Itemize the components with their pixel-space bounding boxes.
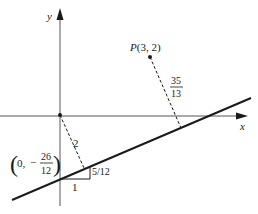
point-p-coords: (3, 2): [137, 41, 161, 54]
intercept-minus: −: [30, 156, 36, 168]
point-distance-numerator: 35: [171, 75, 181, 86]
intercept-numerator: 26: [41, 151, 51, 162]
intercept-denominator: 12: [41, 165, 51, 176]
y-axis-arrow-icon: [57, 8, 64, 20]
x-axis-arrow-icon: [236, 113, 248, 120]
x-axis-label: x: [239, 120, 245, 132]
intercept-close-paren: ): [53, 151, 61, 177]
origin-distance-label: 2: [73, 137, 79, 149]
line: [12, 98, 251, 200]
slope-rise-label: 5/12: [92, 166, 110, 177]
y-axis-label: y: [46, 10, 52, 22]
diagram-canvas: y x 2 P(3, 2) 35 13 1 5/12 ( 0, − 26 12 …: [0, 0, 258, 214]
point-distance-denominator: 13: [171, 88, 181, 99]
slope-run-label: 1: [72, 181, 78, 193]
origin-perpendicular: [60, 115, 84, 168]
intercept-x: 0,: [17, 157, 26, 169]
point-p-label: P(3, 2): [129, 41, 161, 54]
